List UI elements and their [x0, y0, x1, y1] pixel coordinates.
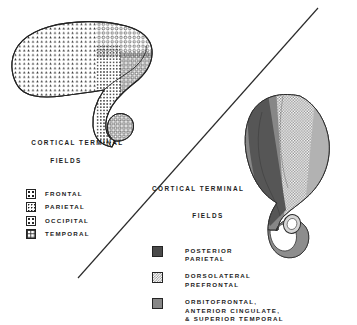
swatch-parietal-icon: [26, 202, 36, 212]
legend-primate-title-line2: FIELDS: [152, 211, 264, 220]
legend-rodent-items: FRONTAL PARIETAL OCCIPITAL TEMPORAL: [26, 189, 142, 239]
legend-primate-title: CORTICAL TERMINAL FIELDS: [152, 166, 352, 238]
legend-rodent: CORTICAL TERMINAL FIELDS FRONTAL PARIETA…: [12, 129, 142, 243]
legend-item-temporal[interactable]: TEMPORAL: [26, 229, 142, 239]
legend-item-dorsolateral-prefrontal[interactable]: DORSOLATERAL PREFRONTAL: [152, 272, 352, 289]
legend-primate: CORTICAL TERMINAL FIELDS POSTERIOR PARIE…: [152, 166, 352, 325]
swatch-dorsolateral-prefrontal-icon: [152, 272, 163, 283]
legend-item-orbitofrontal[interactable]: ORBITOFRONTAL, ANTERIOR CINGULATE, & SUP…: [152, 298, 352, 323]
legend-rodent-title-line1: CORTICAL TERMINAL: [31, 139, 123, 146]
legend-label-orbitofrontal: ORBITOFRONTAL, ANTERIOR CINGULATE, & SUP…: [185, 298, 284, 323]
legend-rodent-title: CORTICAL TERMINAL FIELDS: [12, 129, 142, 183]
legend-label-posterior-parietal: POSTERIOR PARIETAL: [185, 246, 233, 263]
legend-primate-items: POSTERIOR PARIETAL DORSOLATERAL PREFRONT…: [152, 246, 352, 323]
legend-primate-title-line1: CORTICAL TERMINAL: [152, 184, 352, 193]
legend-label-occipital: OCCIPITAL: [45, 216, 89, 225]
legend-label-temporal: TEMPORAL: [45, 229, 90, 238]
legend-label-parietal: PARIETAL: [45, 202, 85, 211]
legend-item-frontal[interactable]: FRONTAL: [26, 189, 142, 199]
legend-rodent-title-line2: FIELDS: [12, 156, 120, 165]
legend-label-dorsolateral-prefrontal: DORSOLATERAL PREFRONTAL: [185, 272, 251, 289]
legend-item-parietal[interactable]: PARIETAL: [26, 202, 142, 212]
legend-label-frontal: FRONTAL: [45, 189, 83, 198]
swatch-occipital-icon: [26, 216, 36, 226]
swatch-orbitofrontal-icon: [152, 298, 163, 309]
rodent-field-frontal: [8, 20, 96, 104]
swatch-temporal-icon: [26, 229, 36, 239]
legend-item-posterior-parietal[interactable]: POSTERIOR PARIETAL: [152, 246, 352, 263]
swatch-posterior-parietal-icon: [152, 246, 163, 257]
legend-item-occipital[interactable]: OCCIPITAL: [26, 216, 142, 226]
swatch-frontal-icon: [26, 189, 36, 199]
